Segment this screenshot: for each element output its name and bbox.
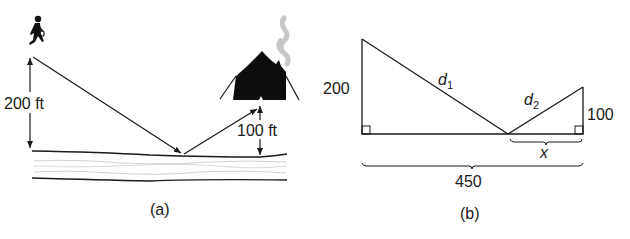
right-angle-marker-right (575, 126, 583, 134)
smoke-icon (278, 18, 288, 64)
hypotenuse-d2 (508, 87, 583, 134)
x-label: x (539, 144, 549, 161)
left-height-label: 200 (323, 80, 350, 97)
panel-b-caption: (b) (460, 205, 480, 222)
panel-b (362, 39, 583, 169)
hypotenuse-d1 (362, 39, 508, 134)
height-tent-label: 100 ft (237, 122, 278, 139)
d1-label: d1 (438, 71, 453, 91)
height-person-label: 200 ft (4, 95, 45, 112)
river-icon (32, 151, 287, 181)
base-brace (362, 163, 583, 169)
panel-b-labels: 200 100 d1 d2 x 450 (b) (323, 71, 614, 222)
person-with-bucket-icon (29, 16, 44, 45)
panel-a-caption: (a) (150, 201, 170, 218)
d2-label: d2 (524, 91, 539, 111)
path-to-river-arrow (33, 57, 181, 153)
base-length-label: 450 (455, 173, 482, 190)
diagram-canvas: 200 ft 100 ft (a) (0, 0, 630, 239)
right-height-label: 100 (587, 106, 614, 123)
panel-a: 200 ft 100 ft (a) (4, 16, 299, 218)
right-angle-marker-left (362, 126, 370, 134)
